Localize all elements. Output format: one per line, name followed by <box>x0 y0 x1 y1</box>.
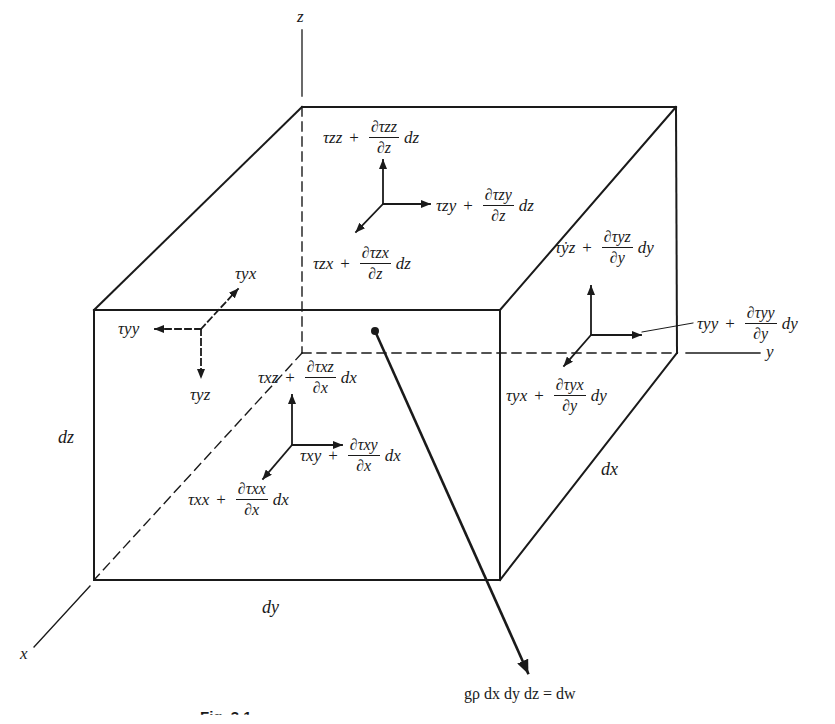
dy-label: dy <box>262 598 279 616</box>
tau-yz-expression: τẏz + ∂τyz∂y dy <box>555 228 654 267</box>
tau-yx-hidden-label: τyx <box>235 265 256 282</box>
tau-xz-expression: τxz + ∂τxz∂x dx <box>258 358 357 397</box>
tau-zx-expression: τzx + ∂τzx∂z dz <box>313 244 411 283</box>
tau-zz-expression: τzz + ∂τzz∂z dz <box>323 118 419 157</box>
box-edges <box>94 107 677 580</box>
stress-element-diagram <box>0 0 835 724</box>
tau-xy-expression: τxy + ∂τxy∂x dx <box>300 436 401 475</box>
tau-yz-hidden-label: τyz <box>190 386 210 403</box>
tau-xx-expression: τxx + ∂τxx∂x dx <box>188 480 289 519</box>
x-axis <box>34 586 90 647</box>
body-force-label: gρ dx dy dz = dw <box>464 685 576 703</box>
tau-yy-expression: τyy + ∂τyy∂y dy <box>697 304 798 343</box>
top-face-arrows <box>356 160 430 232</box>
hidden-face-arrows <box>155 289 238 378</box>
y-axis-label: y <box>766 343 774 360</box>
x-axis-label: x <box>20 645 28 662</box>
tau-yx-expression: τyx + ∂τyx∂y dy <box>506 376 607 415</box>
z-axis-label: z <box>297 8 304 25</box>
dx-label: dx <box>601 460 618 478</box>
tau-yy-hidden-label: τyy <box>118 320 139 337</box>
hidden-edges <box>94 107 677 580</box>
right-face-arrows <box>564 286 693 366</box>
tau-zy-expression: τzy + ∂τzy∂z dz <box>436 186 534 225</box>
dz-label: dz <box>58 428 74 446</box>
